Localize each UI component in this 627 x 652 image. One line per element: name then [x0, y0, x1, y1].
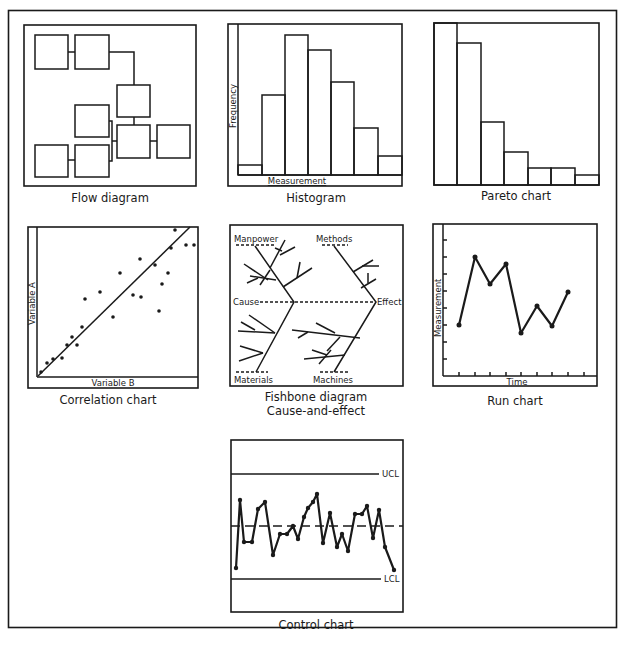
- histogram-bar: [354, 128, 378, 175]
- fishbone-caption-line1: Fishbone diagram: [265, 390, 367, 404]
- fishbone-label-methods: Methods: [316, 234, 353, 244]
- fishbone-label-cause: Cause: [233, 297, 259, 307]
- histogram-y-label: Frequency: [228, 84, 238, 128]
- histogram-caption: Histogram: [286, 191, 346, 205]
- fishbone-right-bones: [334, 246, 376, 372]
- flow-box: [75, 105, 109, 137]
- correlation-x-label: Variable B: [92, 378, 135, 388]
- fishbone-label-manpower: Manpower: [234, 234, 279, 244]
- run-caption: Run chart: [487, 394, 543, 408]
- pareto-bar: [528, 168, 551, 185]
- pareto-bar: [575, 175, 599, 185]
- pareto-panel: Pareto chart: [434, 23, 599, 203]
- run-y-label: Measurement: [433, 278, 443, 337]
- run-chart-panel: Measurement Time Run chart: [433, 224, 597, 408]
- fishbone-label-effect: Effect: [377, 297, 402, 307]
- pareto-caption: Pareto chart: [481, 189, 552, 203]
- pareto-bar: [551, 168, 575, 185]
- histogram-bar: [331, 82, 354, 175]
- flow-box: [117, 85, 150, 117]
- control-caption: Control chart: [278, 618, 354, 632]
- correlation-frame: [28, 227, 198, 388]
- histogram-bar: [285, 35, 308, 175]
- correlation-trend-line: [38, 227, 190, 376]
- flow-box: [35, 145, 68, 177]
- flow-caption: Flow diagram: [71, 191, 149, 205]
- flow-box: [35, 35, 68, 69]
- fishbone-methods-branches: [353, 260, 379, 288]
- correlation-caption: Correlation chart: [60, 393, 157, 407]
- run-x-label: Time: [506, 377, 528, 387]
- control-lcl-label: LCL: [384, 574, 400, 584]
- histogram-frame: [228, 24, 402, 186]
- fishbone-materials-branches: [238, 315, 275, 361]
- control-chart-panel: UCL LCL Control chart: [231, 440, 403, 632]
- flow-frame: [24, 25, 196, 186]
- pareto-bar: [481, 122, 504, 185]
- flow-box: [117, 125, 150, 158]
- fishbone-machines-branches: [292, 323, 360, 364]
- flow-box: [157, 125, 190, 158]
- pareto-frame: [434, 23, 599, 185]
- fishbone-panel: Manpower Methods Materials Machines Caus…: [230, 225, 403, 418]
- flow-box: [75, 145, 109, 177]
- histogram-bar: [262, 95, 285, 175]
- fishbone-label-machines: Machines: [313, 375, 354, 385]
- histogram-x-label: Measurement: [268, 176, 327, 186]
- flow-diagram-panel: Flow diagram: [24, 25, 196, 205]
- pareto-bar: [434, 23, 457, 185]
- histogram-bar: [238, 165, 262, 175]
- histogram-panel: Frequency Measurement Histogram: [228, 24, 402, 205]
- histogram-bar: [378, 156, 402, 175]
- correlation-y-label: Variable A: [27, 282, 37, 325]
- flow-box: [75, 35, 109, 69]
- pareto-bar: [504, 152, 528, 185]
- fishbone-label-materials: Materials: [234, 375, 274, 385]
- correlation-panel: Variable A Variable B Correlation chart: [27, 227, 198, 407]
- pareto-bar: [457, 43, 481, 185]
- run-line: [459, 257, 568, 333]
- outer-frame: [9, 11, 617, 628]
- quality-tools-figure: Flow diagram Frequency Measurement Histo…: [0, 0, 627, 652]
- fishbone-caption-line2: Cause-and-effect: [267, 404, 366, 418]
- control-ucl-label: UCL: [382, 469, 399, 479]
- histogram-bar: [308, 50, 331, 175]
- control-line: [236, 494, 394, 570]
- pareto-bars: [434, 23, 599, 185]
- histogram-bars: [238, 35, 402, 175]
